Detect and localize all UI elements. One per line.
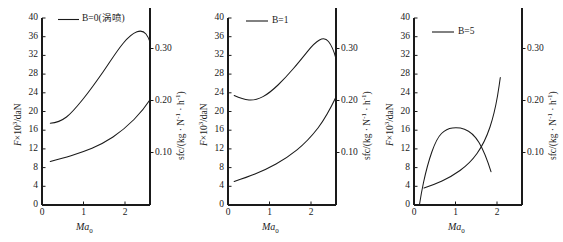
- left-axis-title-mid: ×10: [13, 125, 23, 140]
- x-tick-label-1: 1: [76, 208, 92, 218]
- y2-tick-label-010: 0.10: [527, 148, 544, 158]
- right-axis-title-b: · h: [176, 100, 186, 113]
- x-axis-title: Ma0: [448, 222, 465, 235]
- x-tick-label-1: 1: [448, 208, 464, 218]
- left-axis-title-var: F: [13, 140, 23, 146]
- x-tick-label-1: 1: [262, 208, 278, 218]
- right-axis-title-c: ): [548, 91, 558, 94]
- left-axis-title-suffix: /daN: [385, 103, 395, 121]
- x-axis-title-var: Ma: [76, 221, 89, 232]
- x-tick-label-0: 0: [220, 208, 236, 218]
- right-axis-title-b: · h: [548, 100, 558, 113]
- y-tick-label-8: 8: [374, 163, 410, 173]
- left-axis-title-var: F: [199, 140, 209, 146]
- x-tick-label-0: 0: [34, 208, 50, 218]
- y-tick-label-28: 28: [374, 69, 410, 79]
- x-tick-label-0: 0: [406, 208, 422, 218]
- right-axis-title-c: ): [362, 91, 372, 94]
- y-tick-label-36: 36: [2, 32, 38, 42]
- y-tick-label-24: 24: [374, 88, 410, 98]
- y2-tick-label-030: 0.30: [527, 44, 544, 54]
- y2-tick-label-010: 0.10: [155, 148, 172, 158]
- thrust-curve: [420, 128, 492, 205]
- x-axis-title-var: Ma: [448, 221, 461, 232]
- chart-panel-1: 0 4 8 12 16 20 24 28 32 36 40 0 1 2 0.10…: [0, 0, 188, 242]
- thrust-guide: [419, 6, 500, 85]
- left-axis-title-var: F: [385, 140, 395, 146]
- y-tick-label-40: 40: [374, 13, 410, 23]
- legend-label: B=5: [458, 27, 474, 37]
- left-axis-title-exp: 3: [383, 122, 391, 126]
- left-axis-title-exp: 3: [11, 122, 19, 126]
- y-tick-label-32: 32: [188, 50, 224, 60]
- y2-tick-label-020: 0.20: [527, 96, 544, 106]
- x-axis-title-sub: 0: [89, 227, 93, 235]
- y-tick-label-32: 32: [2, 50, 38, 60]
- x-axis-title-sub: 0: [275, 227, 279, 235]
- left-axis-title-suffix: /daN: [13, 103, 23, 121]
- x-axis-title-var: Ma: [262, 221, 275, 232]
- y-tick-label-4: 4: [2, 181, 38, 191]
- y-tick-label-8: 8: [188, 163, 224, 173]
- right-axis-title-a: sfc/(kg · N: [362, 119, 372, 160]
- x-tick-label-2: 2: [117, 208, 133, 218]
- y-tick-label-4: 4: [188, 181, 224, 191]
- y2-tick-label-020: 0.20: [341, 96, 358, 106]
- thrust-guide-4: [419, 16, 491, 85]
- y2-tick-label-020: 0.20: [155, 96, 172, 106]
- y-tick-label-24: 24: [188, 88, 224, 98]
- chart-panel-2: 0 4 8 12 16 20 24 28 32 36 40 0 1 2 0.10…: [186, 0, 374, 242]
- sfc-curve: [234, 97, 336, 182]
- right-axis-title-exp2: -1: [360, 94, 368, 100]
- left-axis-title-exp: 3: [197, 122, 205, 126]
- right-axis-title-exp1: -1: [546, 113, 554, 119]
- legend-label: B=0(涡喷): [82, 14, 125, 24]
- right-axis-title-exp2: -1: [174, 94, 182, 100]
- y-tick-label-40: 40: [188, 13, 224, 23]
- x-axis-title: Ma0: [262, 222, 279, 235]
- y2-tick-label-030: 0.30: [155, 44, 172, 54]
- y-tick-label-24: 24: [2, 88, 38, 98]
- y2-tick-label-010: 0.10: [341, 148, 358, 158]
- left-axis-title: F×103/daN: [198, 103, 210, 146]
- chart-panel-3: 0 4 8 12 16 20 24 28 32 36 40 0 1 2 0.10…: [372, 0, 560, 242]
- thrust-curve: [50, 31, 150, 123]
- right-axis-title-a: sfc/(kg · N: [548, 119, 558, 160]
- left-axis-title-mid: ×10: [199, 125, 209, 140]
- left-axis-title-mid: ×10: [385, 125, 395, 140]
- y-tick-label-32: 32: [374, 50, 410, 60]
- sfc-curve: [50, 100, 150, 162]
- thrust-guide-3: [419, 8, 495, 83]
- left-axis-title: F×103/daN: [12, 103, 24, 146]
- x-axis-title-sub: 0: [461, 227, 465, 235]
- right-axis-title: sfc/(kg · N-1 · h-1): [547, 91, 559, 160]
- y-tick-label-36: 36: [188, 32, 224, 42]
- left-axis-title: F×103/daN: [384, 103, 396, 146]
- y-tick-label-0: 0: [374, 200, 410, 210]
- right-axis-title: sfc/(kg · N-1 · h-1): [175, 91, 187, 160]
- legend-label: B=1: [272, 16, 288, 26]
- y2-tick-label-030: 0.30: [341, 44, 358, 54]
- x-tick-label-2: 2: [303, 208, 319, 218]
- y-tick-label-40: 40: [2, 13, 38, 23]
- right-axis-title-c: ): [176, 91, 186, 94]
- y-tick-label-0: 0: [188, 200, 224, 210]
- left-axis-title-suffix: /daN: [199, 103, 209, 121]
- y-tick-label-36: 36: [374, 32, 410, 42]
- right-axis-title-b: · h: [362, 100, 372, 113]
- right-axis-title-exp1: -1: [360, 113, 368, 119]
- y-tick-label-28: 28: [2, 69, 38, 79]
- y-tick-label-8: 8: [2, 163, 38, 173]
- right-axis-title: sfc/(kg · N-1 · h-1): [361, 91, 373, 160]
- y-tick-label-0: 0: [2, 200, 38, 210]
- y-tick-label-4: 4: [374, 181, 410, 191]
- sfc-curve: [424, 78, 500, 189]
- y-tick-label-28: 28: [188, 69, 224, 79]
- right-axis-title-exp2: -1: [546, 94, 554, 100]
- x-tick-label-2: 2: [489, 208, 505, 218]
- right-axis-title-exp1: -1: [174, 113, 182, 119]
- triple-line-chart-figure: 0 4 8 12 16 20 24 28 32 36 40 0 1 2 0.10…: [0, 0, 563, 242]
- x-axis-title: Ma0: [76, 222, 93, 235]
- right-axis-title-a: sfc/(kg · N: [176, 119, 186, 160]
- thrust-curve: [234, 39, 336, 100]
